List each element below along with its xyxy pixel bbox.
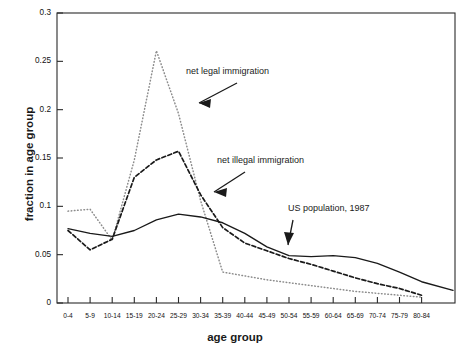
x-axis-label: age group <box>0 331 470 343</box>
annotation-net-illegal-immigration: net illegal immigration <box>217 155 304 165</box>
y-axis-ticks <box>57 13 63 303</box>
y-tick-label: 0.1 <box>21 201 51 210</box>
x-tick-label: 80-84 <box>405 312 439 319</box>
annotation-us-population: US population, 1987 <box>288 203 370 213</box>
chart-figure: fraction in age group age group 00.050.1… <box>0 0 470 354</box>
y-tick-label: 0.15 <box>21 153 51 162</box>
data-series-layer <box>68 51 453 298</box>
y-tick-label: 0.3 <box>21 8 51 17</box>
y-tick-label: 0.2 <box>21 105 51 114</box>
chart-plot-area <box>0 0 470 354</box>
series-net-legal-immigration <box>68 51 422 298</box>
y-tick-label: 0.05 <box>21 250 51 259</box>
y-tick-label: 0 <box>21 298 51 307</box>
x-axis-ticks <box>68 297 422 303</box>
y-tick-label: 0.25 <box>21 56 51 65</box>
arrow-us-population <box>284 220 294 245</box>
arrow-net-legal-immigration <box>199 83 237 108</box>
annotation-net-legal-immigration: net legal immigration <box>186 66 269 76</box>
arrow-net-illegal-immigration <box>214 172 245 197</box>
